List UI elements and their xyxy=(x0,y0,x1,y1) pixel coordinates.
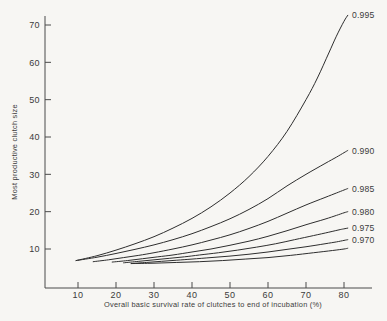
series-label-0.975: 0.975 xyxy=(352,223,375,233)
curve-0.995 xyxy=(76,15,348,260)
x-tick-label-40: 40 xyxy=(187,290,198,300)
x-tick-label-80: 80 xyxy=(339,290,350,300)
y-axis-title: Most productive clutch size xyxy=(10,104,19,199)
x-tick-label-50: 50 xyxy=(225,290,236,300)
series-label-0.995: 0.995 xyxy=(352,10,375,20)
series-label-0.970: 0.970 xyxy=(352,235,375,245)
x-tick-label-30: 30 xyxy=(149,290,160,300)
y-tick-label-40: 40 xyxy=(29,132,40,142)
series-label-0.985: 0.985 xyxy=(352,184,375,194)
x-tick-label-70: 70 xyxy=(301,290,312,300)
series-label-0.990: 0.990 xyxy=(352,146,375,156)
y-tick-label-60: 60 xyxy=(29,58,40,68)
curve-0.990 xyxy=(76,150,348,260)
data-curves xyxy=(76,15,348,263)
chart-figure: 1020304050607080 10203040506070 0.9950.9… xyxy=(0,0,387,321)
series-labels: 0.9950.9900.9850.9800.9750.970 xyxy=(352,10,375,244)
y-tick-label-70: 70 xyxy=(29,20,40,30)
x-tick-label-20: 20 xyxy=(111,290,122,300)
x-tick-labels: 1020304050607080 xyxy=(73,290,350,300)
y-tick-marks xyxy=(45,25,51,249)
y-tick-label-20: 20 xyxy=(29,207,40,217)
x-tick-label-60: 60 xyxy=(263,290,274,300)
y-tick-label-50: 50 xyxy=(29,95,40,105)
chart-axes xyxy=(45,16,372,288)
y-tick-labels: 10203040506070 xyxy=(29,20,40,254)
x-tick-marks xyxy=(78,282,344,288)
x-axis-title: Overall basic survival rate of clutches … xyxy=(104,300,322,309)
x-tick-label-10: 10 xyxy=(73,290,84,300)
y-tick-label-30: 30 xyxy=(29,170,40,180)
series-label-0.980: 0.980 xyxy=(352,207,375,217)
curve-0.985 xyxy=(93,189,348,262)
y-tick-label-10: 10 xyxy=(29,244,40,254)
